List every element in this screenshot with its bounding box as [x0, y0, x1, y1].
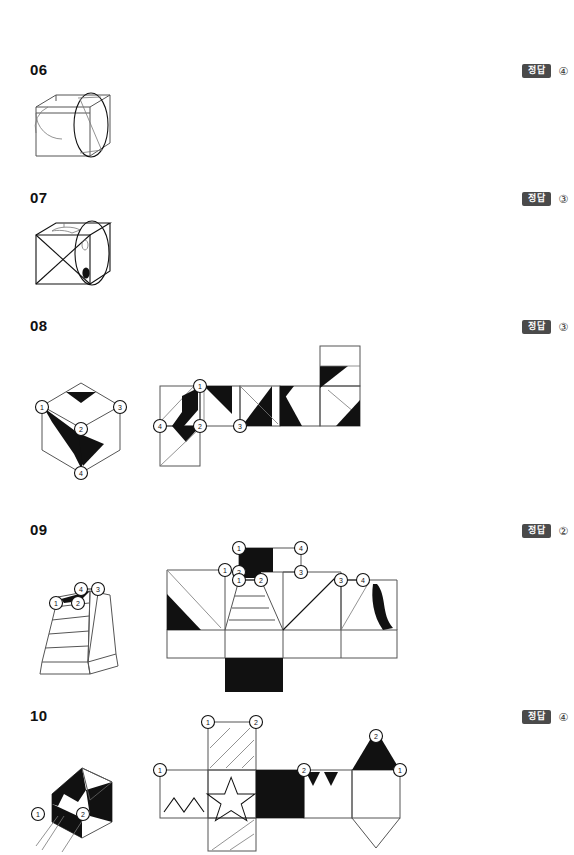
problem-07: 07 정답 ③	[0, 190, 574, 300]
svg-text:3: 3	[238, 423, 242, 430]
figure-09-net: 1 4 2 3 1 1 2	[155, 538, 415, 693]
vertex-marker-2: 2	[72, 597, 85, 610]
svg-text:2: 2	[79, 426, 83, 433]
svg-text:1: 1	[223, 567, 227, 574]
net-marker-3a: 3	[295, 566, 308, 579]
svg-text:1: 1	[237, 577, 241, 584]
net-marker-1-left: 1	[154, 764, 167, 777]
svg-text:1: 1	[198, 383, 202, 390]
vertex-marker-3: 3	[114, 401, 127, 414]
svg-text:3: 3	[96, 586, 100, 593]
svg-text:4: 4	[158, 423, 162, 430]
svg-text:1: 1	[237, 545, 241, 552]
answer-value: ③	[558, 322, 568, 333]
vertex-marker-2: 2	[75, 423, 88, 436]
net-marker-2-mid: 2	[298, 764, 311, 777]
svg-text:2: 2	[302, 767, 306, 774]
vertex-marker-1: 1	[194, 380, 207, 393]
answer-tag-label: 정답	[522, 192, 551, 206]
answer-value: ④	[558, 66, 568, 77]
svg-text:2: 2	[198, 423, 202, 430]
problem-number: 08	[30, 318, 48, 333]
problem-10: 10 정답 ④ 1	[0, 708, 574, 851]
answer-tag-label: 정답	[522, 710, 551, 724]
problem-number: 07	[30, 190, 48, 205]
answer-tag-label: 정답	[522, 320, 551, 334]
problem-number: 09	[30, 522, 48, 537]
svg-text:1: 1	[158, 767, 162, 774]
net-marker-4a: 4	[295, 542, 308, 555]
svg-text:1: 1	[206, 719, 210, 726]
vertex-marker-4: 4	[75, 467, 88, 480]
answer-badge-09: 정답 ②	[522, 524, 568, 538]
vertex-marker-3: 3	[92, 583, 105, 596]
net-marker-2-peak: 2	[370, 730, 383, 743]
answer-badge-07: 정답 ③	[522, 192, 568, 206]
answer-tag-label: 정답	[522, 64, 551, 78]
vertex-marker-4: 4	[154, 420, 167, 433]
net-marker-2b: 2	[255, 574, 268, 587]
figure-08-net: 1 2 3 4	[160, 338, 370, 483]
net-marker-1-right: 1	[394, 764, 407, 777]
vertex-marker-1: 1	[36, 401, 49, 414]
svg-text:2: 2	[374, 733, 378, 740]
answer-badge-08: 정답 ③	[522, 320, 568, 334]
answer-value: ④	[558, 712, 568, 723]
net-marker-1b: 1	[219, 564, 232, 577]
net-marker-1c: 1	[233, 574, 246, 587]
svg-text:3: 3	[299, 569, 303, 576]
answer-badge-06: 정답 ④	[522, 64, 568, 78]
figure-07	[28, 213, 138, 293]
svg-text:3: 3	[339, 577, 343, 584]
net-marker-2-top: 2	[250, 716, 263, 729]
net-marker-4b: 4	[357, 574, 370, 587]
problem-number: 06	[30, 62, 48, 77]
vertex-marker-1: 1	[50, 597, 63, 610]
answer-tag-label: 정답	[522, 524, 551, 538]
answer-value: ②	[558, 526, 568, 537]
svg-text:2: 2	[81, 811, 85, 818]
svg-text:1: 1	[398, 767, 402, 774]
answer-badge-10: 정답 ④	[522, 710, 568, 724]
svg-text:4: 4	[79, 586, 83, 593]
net-marker-3b: 3	[335, 574, 348, 587]
vertex-marker-3: 3	[234, 420, 247, 433]
figure-08-solid: 1 2 3 4	[30, 378, 145, 483]
figure-06	[28, 85, 138, 165]
problem-number: 10	[30, 708, 48, 723]
vertex-marker-2: 2	[194, 420, 207, 433]
problem-06: 06 정답 ④	[0, 62, 574, 172]
problem-08: 08 정답 ③ 1 2	[0, 318, 574, 493]
svg-text:1: 1	[40, 404, 44, 411]
svg-text:4: 4	[299, 545, 303, 552]
figure-10-solid: 1 2	[28, 760, 148, 855]
figure-10-net: 1 2 1 2 2 1	[152, 726, 422, 851]
svg-text:2: 2	[76, 600, 80, 607]
svg-text:4: 4	[79, 470, 83, 477]
vertex-marker-4: 4	[75, 583, 88, 596]
svg-text:2: 2	[254, 719, 258, 726]
svg-text:1: 1	[36, 811, 40, 818]
problem-09: 09 정답 ②	[0, 522, 574, 707]
figure-09-solid: 1 2 3 4	[28, 562, 143, 677]
answer-value: ③	[558, 194, 568, 205]
svg-text:4: 4	[361, 577, 365, 584]
net-marker-1-top: 1	[202, 716, 215, 729]
svg-text:3: 3	[118, 404, 122, 411]
vertex-marker-1: 1	[32, 808, 45, 821]
svg-text:2: 2	[259, 577, 263, 584]
svg-text:1: 1	[54, 600, 58, 607]
net-marker-1a: 1	[233, 542, 246, 555]
vertex-marker-2: 2	[77, 808, 90, 821]
